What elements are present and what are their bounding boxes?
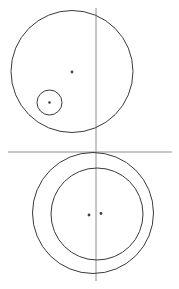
figure-canvas (0, 0, 179, 289)
circles-and-axes-diagram (0, 0, 179, 289)
upper-small-circle-center-dot (48, 101, 51, 104)
lower-outer-circle-center-dot (88, 214, 91, 217)
lower-inner-circle-center-dot (100, 212, 103, 215)
upper-large-circle-center-dot (71, 71, 74, 74)
diagram-background (0, 0, 179, 289)
